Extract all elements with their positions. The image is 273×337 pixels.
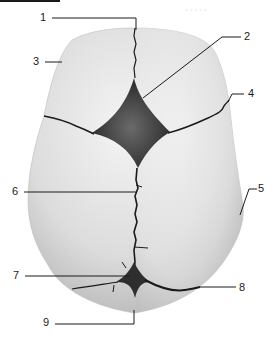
label-1: 1 [40, 12, 46, 23]
leader-9 [55, 310, 134, 324]
label-5: 5 [258, 183, 264, 194]
right-parietal-shade [136, 28, 243, 313]
label-3: 3 [33, 56, 39, 67]
label-4: 4 [248, 88, 254, 99]
skull-illustration [0, 0, 273, 337]
leader-4 [228, 94, 244, 102]
label-7: 7 [13, 270, 19, 281]
label-6: 6 [12, 186, 18, 197]
skull-diagram: ····· [0, 0, 273, 337]
label-8: 8 [239, 282, 245, 293]
label-9: 9 [43, 317, 49, 328]
label-2: 2 [244, 31, 250, 42]
